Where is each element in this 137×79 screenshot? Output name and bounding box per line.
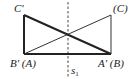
label-b-prime-a: B' (A) xyxy=(10,57,36,70)
label-s1: s1 xyxy=(71,64,79,78)
label-a-prime-b: A' (B) xyxy=(97,57,124,70)
reflection-diagram: C' (C) B' (A) A' (B) s1 xyxy=(0,0,137,79)
label-c: (C) xyxy=(113,2,128,15)
label-c-prime: C' xyxy=(14,2,24,14)
axis-subscript: 1 xyxy=(75,70,79,78)
